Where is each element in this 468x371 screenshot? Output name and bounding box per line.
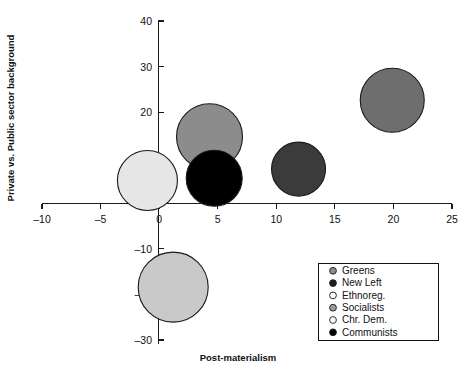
y-axis-title: Private vs. Public sector background	[5, 34, 16, 201]
chart-canvas: –10–50510152025 403020–10–20–30 GreensNe…	[0, 0, 468, 371]
bubble-ethnoreg	[117, 151, 177, 211]
legend-marker	[330, 317, 337, 324]
bubble-new-left	[272, 142, 326, 196]
bubble-communists	[186, 150, 242, 206]
legend-label: Ethnoreg.	[342, 290, 385, 301]
chart-legend: GreensNew LeftEthnoreg.SocialistsChr. De…	[319, 264, 439, 341]
y-tick-label: –30	[134, 334, 152, 346]
legend-marker	[330, 329, 337, 336]
x-tick-label: –5	[95, 213, 107, 225]
y-tick-label: 40	[140, 15, 152, 27]
x-tick-label: 0	[156, 213, 162, 225]
x-ticks: –10–50510152025	[33, 204, 458, 226]
x-tick-label: 15	[329, 213, 341, 225]
bubble-socialists	[138, 252, 208, 322]
x-axis-title: Post-materialism	[200, 352, 277, 363]
bubble-chr-dem	[360, 68, 424, 132]
y-tick-label: 30	[140, 61, 152, 73]
x-tick-label: 10	[270, 213, 282, 225]
legend-marker	[330, 292, 337, 299]
x-tick-label: 5	[215, 213, 221, 225]
y-tick-label: 20	[140, 106, 152, 118]
legend-label: New Left	[342, 277, 382, 288]
legend-marker	[330, 267, 337, 274]
legend-marker	[330, 304, 337, 311]
legend-label: Socialists	[342, 302, 384, 313]
y-tick-label: –10	[134, 243, 152, 255]
legend-label: Chr. Dem.	[342, 314, 387, 325]
x-tick-label: –10	[33, 213, 51, 225]
x-tick-label: 20	[388, 213, 400, 225]
legend-label: Communists	[342, 327, 398, 338]
legend-marker	[330, 280, 337, 287]
x-tick-label: 25	[446, 213, 458, 225]
legend-label: Greens	[342, 265, 375, 276]
bubble-chart: –10–50510152025 403020–10–20–30 GreensNe…	[0, 0, 468, 371]
